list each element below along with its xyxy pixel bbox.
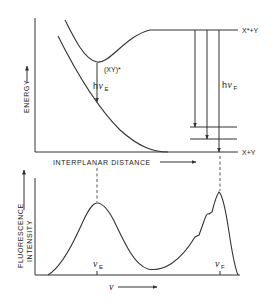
svg-text:h: h: [222, 80, 227, 90]
svg-text:FLUORESCENCE: FLUORESCENCE: [17, 203, 24, 268]
ground-asymptote-label: X+Y: [242, 149, 256, 156]
svg-text:INTENSITY: INTENSITY: [26, 220, 33, 262]
svg-text:INTERPLANAR DISTANCE: INTERPLANAR DISTANCE: [53, 159, 151, 166]
svg-text:ν: ν: [99, 80, 104, 91]
fluorescence-spectrum-curve: [48, 192, 238, 275]
svg-text:E: E: [105, 86, 109, 92]
ground-repulsive-curve: [58, 36, 168, 152]
excimer-potential-curve: [65, 20, 238, 62]
svg-text:ν: ν: [93, 258, 98, 269]
h-nu-e-label: h ν E: [93, 80, 109, 92]
excimer-label: (XY)*: [104, 66, 121, 74]
svg-text:ENERGY: ENERGY: [23, 80, 30, 113]
excimer-diagram: ENERGY (XY)* h ν E X*+Y h ν F: [0, 0, 276, 302]
svg-text:ν: ν: [215, 258, 220, 269]
potential-energy-panel: ENERGY (XY)* h ν E X*+Y h ν F: [23, 18, 258, 166]
fluorescence-intensity-label: FLUORESCENCE INTENSITY: [17, 170, 33, 268]
svg-text:F: F: [234, 85, 238, 91]
svg-text:h: h: [93, 81, 98, 91]
excited-asymptote-label: X*+Y: [242, 27, 258, 34]
frequency-axis-label: ν: [109, 281, 157, 292]
svg-text:F: F: [221, 264, 225, 270]
nu-f-peak-label: ν F: [215, 258, 225, 270]
interplanar-distance-label: INTERPLANAR DISTANCE: [53, 159, 196, 166]
svg-text:ν: ν: [109, 281, 114, 292]
energy-axis-label: ENERGY: [23, 66, 30, 113]
svg-text:E: E: [99, 264, 103, 270]
svg-text:ν: ν: [228, 79, 233, 90]
fluorescence-spectrum-panel: FLUORESCENCE INTENSITY ν E ν F ν: [17, 170, 240, 292]
h-nu-f-label: h ν F: [222, 79, 238, 91]
nu-e-peak-label: ν E: [93, 258, 103, 270]
